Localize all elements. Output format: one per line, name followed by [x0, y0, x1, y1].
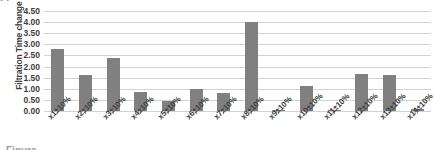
bar-chart: Filtration Time change (%) 4.504.003.503… [0, 0, 434, 150]
y-axis-tick-labels: 4.504.003.503.002.502.001.501.000.500.00 [12, 7, 40, 111]
cropped-caption-bottom: Figure [6, 146, 434, 150]
y-axis-tick-label: 1.50 [12, 74, 40, 82]
y-axis-tick-label: 0.50 [12, 96, 40, 104]
x-label-slot: x11±10% [320, 114, 348, 148]
x-label-slot: x9±10% [265, 114, 293, 148]
y-axis-tick-label: 1.00 [12, 85, 40, 93]
x-label-slot: x14±10% [403, 114, 431, 148]
x-label-slot: x13±10% [376, 114, 404, 148]
y-axis-tick-label: 4.50 [12, 7, 40, 15]
x-label-slot: x6±10% [182, 114, 210, 148]
x-label-slot: x7±10% [210, 114, 238, 148]
y-axis-tick-label: 2.00 [12, 63, 40, 71]
y-axis-tick-label: 3.50 [12, 29, 40, 37]
x-label-slot: x8±10% [237, 114, 265, 148]
y-axis-tick-label: 2.50 [12, 51, 40, 59]
y-axis-tick-label: 3.00 [12, 40, 40, 48]
x-label-slot: x2±10% [72, 114, 100, 148]
y-axis-tick-label: 4.00 [12, 18, 40, 26]
x-label-slot: x10±10% [293, 114, 321, 148]
x-label-slot: x1±10% [44, 114, 72, 148]
x-axis-tick-labels: x1±10%x2±10%x3±10%x4±10%x5±10%x6±10%x7±1… [44, 114, 431, 148]
y-axis-tick-label: 0.00 [12, 107, 40, 115]
x-label-slot: x12±10% [348, 114, 376, 148]
x-label-slot: x5±10% [155, 114, 183, 148]
x-label-slot: x4±10% [127, 114, 155, 148]
x-label-slot: x3±10% [99, 114, 127, 148]
